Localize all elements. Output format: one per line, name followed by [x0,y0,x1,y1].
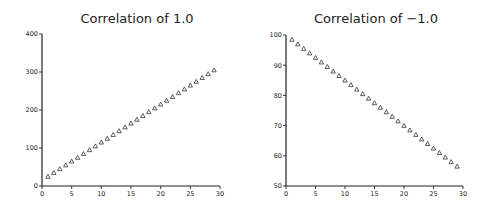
y-tick-label: 90 [274,62,282,70]
triangle-marker-icon [212,68,216,72]
triangle-marker-icon [81,152,85,156]
triangle-marker-icon [182,87,186,91]
triangle-marker-icon [343,78,347,82]
triangle-marker-icon [302,46,306,50]
y-tick-label: 60 [274,152,282,160]
triangle-marker-icon [200,76,204,80]
triangle-marker-icon [420,137,424,141]
y-tick-label: 0 [34,182,38,190]
triangle-marker-icon [437,151,441,155]
triangle-marker-icon [170,95,174,99]
triangle-marker-icon [129,121,133,125]
triangle-marker-icon [331,69,335,73]
data-points [290,37,460,168]
x-tick-label: 25 [429,190,437,198]
triangle-marker-icon [402,123,406,127]
triangle-marker-icon [355,87,359,91]
triangle-marker-icon [135,117,139,121]
triangle-marker-icon [425,142,429,146]
triangle-marker-icon [158,102,162,106]
x-tick-label: 30 [216,190,224,198]
triangle-marker-icon [69,159,73,163]
x-tick-label: 25 [186,190,194,198]
triangle-marker-icon [361,92,365,96]
triangle-marker-icon [313,55,317,59]
triangle-marker-icon [455,164,459,168]
triangle-marker-icon [164,98,168,102]
triangle-marker-icon [188,83,192,87]
x-tick-label: 5 [313,190,317,198]
triangle-marker-icon [153,106,157,110]
y-tick-label: 100 [270,31,282,39]
y-tick-label: 70 [274,122,282,130]
triangle-marker-icon [325,65,329,69]
triangle-marker-icon [123,125,127,129]
y-tick-label: 300 [26,68,38,76]
triangle-marker-icon [58,167,62,171]
chart-panel-negative-correlation: Correlation of −1.0 50607080901000510152… [270,11,468,198]
triangle-marker-icon [349,83,353,87]
x-tick-label: 15 [127,190,135,198]
axes: 5060708090100051015202530 [270,31,468,198]
triangle-marker-icon [46,174,50,178]
data-points [46,68,217,178]
triangle-marker-icon [449,160,453,164]
chart-title: Correlation of −1.0 [314,11,438,26]
chart-panel-positive-correlation: Correlation of 1.0 010020030040005101520… [26,11,225,198]
triangle-marker-icon [141,114,145,118]
x-tick-label: 20 [157,190,165,198]
triangle-marker-icon [396,119,400,123]
y-tick-label: 80 [274,92,282,100]
triangle-marker-icon [111,133,115,137]
chart-canvas: Correlation of 1.0 010020030040005101520… [0,0,485,211]
triangle-marker-icon [390,114,394,118]
triangle-marker-icon [176,91,180,95]
x-tick-label: 30 [459,190,467,198]
triangle-marker-icon [443,155,447,159]
triangle-marker-icon [99,140,103,144]
triangle-marker-icon [384,110,388,114]
triangle-marker-icon [408,128,412,132]
y-tick-label: 50 [274,182,282,190]
triangle-marker-icon [64,163,68,167]
x-tick-label: 5 [70,190,74,198]
triangle-marker-icon [105,136,109,140]
triangle-marker-icon [372,101,376,105]
x-tick-label: 10 [341,190,349,198]
triangle-marker-icon [366,96,370,100]
triangle-marker-icon [93,144,97,148]
triangle-marker-icon [319,60,323,64]
x-tick-label: 10 [97,190,105,198]
x-tick-label: 0 [284,190,288,198]
triangle-marker-icon [87,148,91,152]
y-tick-label: 200 [26,106,38,114]
x-tick-label: 15 [370,190,378,198]
triangle-marker-icon [290,37,294,41]
triangle-marker-icon [206,72,210,76]
chart-title: Correlation of 1.0 [80,11,193,26]
y-tick-label: 400 [26,30,38,38]
triangle-marker-icon [414,132,418,136]
triangle-marker-icon [378,105,382,109]
y-tick-label: 100 [26,144,38,152]
triangle-marker-icon [75,155,79,159]
triangle-marker-icon [52,171,56,175]
triangle-marker-icon [117,129,121,133]
triangle-marker-icon [337,74,341,78]
triangle-marker-icon [307,51,311,55]
triangle-marker-icon [147,110,151,114]
x-tick-label: 20 [400,190,408,198]
triangle-marker-icon [296,42,300,46]
x-tick-label: 0 [40,190,44,198]
triangle-marker-icon [431,146,435,150]
triangle-marker-icon [194,79,198,83]
